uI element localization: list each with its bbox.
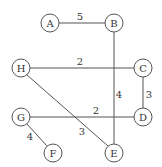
node-d: D [134,108,152,126]
node-label-b: B [110,18,117,29]
node-label-h: H [17,63,26,74]
node-e: E [105,144,123,162]
edge-weight-c-d: 3 [146,89,152,100]
edge-weight-g-d: 2 [93,105,99,116]
node-c: C [134,59,152,77]
node-label-c: C [139,63,147,74]
edge-weight-h-e: 3 [79,126,85,137]
node-label-d: D [139,112,147,123]
node-b: B [105,14,123,32]
node-g: G [12,108,30,126]
node-label-f: F [50,148,57,159]
node-label-a: A [45,18,54,29]
node-a: A [41,14,59,32]
node-h: H [12,59,30,77]
edge-weight-g-f: 4 [27,131,33,142]
edge-weight-b-e: 4 [116,89,122,100]
graph-diagram: 5 2 4 3 2 3 4 A B H C G D [0,0,162,167]
edge-weight-a-b: 5 [77,11,83,22]
node-label-e: E [110,148,117,159]
node-label-g: G [17,112,25,123]
node-f: F [44,144,62,162]
edge-weight-h-c: 2 [77,56,83,67]
